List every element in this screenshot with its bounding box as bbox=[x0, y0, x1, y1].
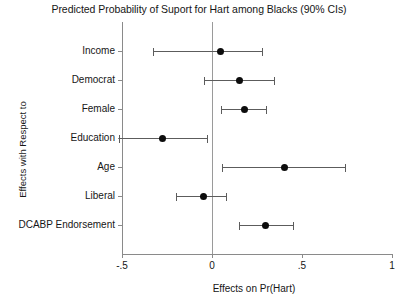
y-axis-tick bbox=[118, 80, 122, 81]
x-axis-tick-label: .5 bbox=[282, 260, 322, 271]
zero-reference-line bbox=[212, 22, 213, 254]
x-axis-tick-label: 1 bbox=[372, 260, 398, 271]
x-axis-tick-label: -.5 bbox=[102, 260, 142, 271]
estimate-point-marker bbox=[262, 222, 269, 229]
y-axis-tick bbox=[118, 196, 122, 197]
y-axis-tick bbox=[118, 109, 122, 110]
x-axis-tick bbox=[212, 254, 213, 258]
y-axis-tick-label: DCABP Endorsement bbox=[18, 218, 115, 231]
ci-cap-upper bbox=[345, 164, 346, 172]
y-axis-title: Effects with Respect to bbox=[17, 70, 28, 230]
y-axis-tick bbox=[118, 51, 122, 52]
y-axis-tick-label: Income bbox=[82, 44, 115, 57]
ci-cap-lower bbox=[239, 222, 240, 230]
ci-cap-upper bbox=[293, 222, 294, 230]
estimate-point-marker bbox=[159, 135, 166, 142]
ci-cap-lower bbox=[153, 48, 154, 56]
ci-cap-lower bbox=[204, 77, 205, 85]
y-axis-tick-label: Education bbox=[71, 131, 115, 144]
y-axis-tick-label: Female bbox=[82, 102, 115, 115]
coefficient-plot-figure: Predicted Probability of Suport for Hart… bbox=[0, 0, 398, 306]
confidence-interval-line bbox=[153, 51, 263, 52]
ci-cap-upper bbox=[262, 48, 263, 56]
ci-cap-lower bbox=[221, 106, 222, 114]
x-axis-tick-label: 0 bbox=[192, 260, 232, 271]
ci-cap-upper bbox=[274, 77, 275, 85]
ci-cap-upper bbox=[207, 135, 208, 143]
estimate-point-marker bbox=[281, 164, 288, 171]
y-axis-tick-label: Age bbox=[97, 160, 115, 173]
x-axis-tick bbox=[392, 254, 393, 258]
y-axis-tick bbox=[118, 225, 122, 226]
estimate-point-marker bbox=[241, 106, 248, 113]
ci-cap-lower bbox=[176, 193, 177, 201]
y-axis-tick bbox=[118, 167, 122, 168]
estimate-point-marker bbox=[200, 193, 207, 200]
x-axis-tick bbox=[302, 254, 303, 258]
ci-cap-lower bbox=[119, 135, 120, 143]
y-axis-tick-label: Democrat bbox=[72, 73, 115, 86]
ci-cap-upper bbox=[226, 193, 227, 201]
x-axis-line bbox=[122, 254, 392, 255]
x-axis-title: Effects on Pr(Hart) bbox=[110, 283, 398, 294]
ci-cap-lower bbox=[222, 164, 223, 172]
chart-title: Predicted Probability of Suport for Hart… bbox=[0, 3, 398, 16]
ci-cap-upper bbox=[266, 106, 267, 114]
y-axis-tick-label: Liberal bbox=[85, 189, 115, 202]
estimate-point-marker bbox=[236, 77, 243, 84]
plot-area: IncomeDemocratFemaleEducationAgeLiberalD… bbox=[122, 22, 392, 254]
estimate-point-marker bbox=[217, 48, 224, 55]
x-axis-tick bbox=[122, 254, 123, 258]
